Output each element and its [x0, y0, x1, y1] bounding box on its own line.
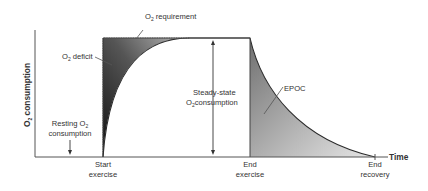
start-exercise-label-line1: Start — [95, 160, 112, 169]
end-exercise-label-line1: End — [243, 160, 257, 169]
resting-label-line1: Resting O2 — [52, 119, 89, 129]
o2-consumption-curve — [103, 38, 375, 157]
o2-deficit-region — [103, 38, 190, 157]
end-recovery-label-line2: recovery — [360, 170, 389, 179]
o2-requirement-label: O2 requirement — [145, 12, 197, 22]
start-exercise-label-line2: exercise — [89, 170, 117, 179]
y-axis-label: O2 consumption — [22, 63, 33, 127]
end-exercise-label-line2: exercise — [236, 170, 264, 179]
resting-arrow — [68, 140, 72, 155]
epoc-region — [250, 38, 375, 157]
end-recovery-label-line1: End — [368, 160, 382, 169]
steady-state-label-line2: O2consumption — [186, 98, 238, 108]
o2-deficit-label: O2 deficit — [62, 52, 94, 62]
x-axis-label: Time — [389, 152, 409, 162]
epoc-label: EPOC — [284, 84, 306, 93]
steady-state-label-line1: Steady-state — [193, 88, 236, 97]
resting-label-line2: consumption — [48, 129, 91, 138]
oxygen-consumption-diagram: O2 consumption Time O2 requirement O2 de… — [0, 0, 428, 191]
